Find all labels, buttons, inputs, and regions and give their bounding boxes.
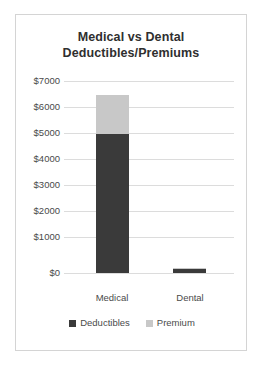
- legend-label-premium: Premium: [157, 318, 195, 328]
- ytick-label-3000: $3000: [16, 180, 60, 190]
- ytick-label-2000: $2000: [16, 206, 60, 216]
- gridline-5000: [64, 133, 234, 134]
- axis-baseline-0: [64, 273, 234, 274]
- gridline-2000: [64, 211, 234, 212]
- legend-item-premium[interactable]: Premium: [146, 318, 195, 328]
- ytick-label-6000: $6000: [16, 102, 60, 112]
- ytick-label-7000: $7000: [16, 76, 60, 86]
- legend-swatch-premium-icon: [146, 320, 153, 327]
- legend-swatch-deductibles-icon: [69, 320, 76, 327]
- chart-container: Medical vs Dental Deductibles/Premiums $…: [15, 14, 247, 351]
- ytick-label-4000: $4000: [16, 154, 60, 164]
- legend-item-deductibles[interactable]: Deductibles: [69, 318, 130, 328]
- bar-stack-dental[interactable]: [173, 268, 206, 273]
- bar-stack-medical[interactable]: [96, 95, 129, 273]
- chart-legend: Deductibles Premium: [16, 318, 248, 328]
- gridline-1000: [64, 237, 234, 238]
- ytick-label-0: $0: [16, 268, 60, 278]
- xtick-label-dental: Dental: [150, 292, 230, 303]
- gridline-6000: [64, 107, 234, 108]
- gridline-3000: [64, 185, 234, 186]
- bar-segment-medical-deductibles[interactable]: [96, 134, 129, 273]
- gridline-7000: [64, 81, 234, 82]
- plot-area: $7000 $6000 $5000 $4000 $3000 $2000 $100…: [16, 15, 248, 352]
- bar-segment-dental-deductibles[interactable]: [173, 269, 206, 273]
- ytick-label-1000: $1000: [16, 232, 60, 242]
- bar-segment-medical-premium[interactable]: [96, 95, 129, 134]
- gridline-4000: [64, 159, 234, 160]
- xtick-label-medical: Medical: [72, 292, 152, 303]
- legend-label-deductibles: Deductibles: [80, 318, 130, 328]
- ytick-label-5000: $5000: [16, 128, 60, 138]
